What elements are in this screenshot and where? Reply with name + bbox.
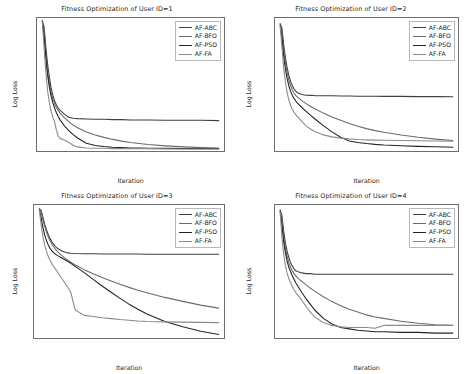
legend: AF-ABCAF-BFOAF-PSOAF-FA — [175, 21, 221, 61]
legend-swatch-icon — [413, 232, 426, 233]
legend-item: AF-ABC — [179, 212, 217, 219]
plot-area: 0.2750.3000.3250.3500.3750.4000.4250.450… — [274, 204, 459, 339]
subplot-user-3: Fitness Optimization of User ID=3Log Los… — [0, 187, 234, 374]
legend-label: AF-PSO — [429, 229, 451, 236]
subplot-title: Fitness Optimization of User ID=4 — [234, 192, 468, 200]
subplot-user-1: Fitness Optimization of User ID=1Log Los… — [0, 0, 234, 187]
legend-item: AF-BFO — [413, 33, 451, 40]
legend-swatch-icon — [179, 27, 192, 28]
legend-label: AF-PSO — [429, 42, 451, 49]
legend: AF-ABCAF-BFOAF-PSOAF-FA — [409, 208, 455, 248]
x-axis-label: Iteration — [274, 177, 459, 184]
legend-swatch-icon — [179, 241, 192, 242]
legend-item: AF-ABC — [179, 25, 217, 32]
legend-swatch-icon — [413, 223, 426, 224]
legend-item: AF-BFO — [413, 220, 451, 227]
legend-label: AF-FA — [429, 238, 446, 245]
x-axis-label: Iteration — [33, 364, 225, 371]
legend-swatch-icon — [413, 36, 426, 37]
legend-label: AF-BFO — [195, 33, 217, 40]
legend-item: AF-ABC — [413, 212, 451, 219]
legend-swatch-icon — [413, 45, 426, 46]
legend-item: AF-PSO — [413, 42, 451, 49]
subplot-user-2: Fitness Optimization of User ID=2Log Los… — [234, 0, 468, 187]
legend-swatch-icon — [179, 223, 192, 224]
legend-item: AF-BFO — [179, 220, 217, 227]
legend-swatch-icon — [413, 214, 426, 215]
y-axis-label: Log Loss — [245, 267, 252, 294]
legend-item: AF-FA — [413, 238, 451, 245]
subplot-title: Fitness Optimization of User ID=2 — [234, 5, 468, 13]
legend-item: AF-FA — [179, 51, 217, 58]
legend-label: AF-FA — [195, 51, 212, 58]
legend-item: AF-PSO — [179, 229, 217, 236]
plot-area: 0.40.50.60.70.80.90100200300400500600700… — [33, 204, 225, 339]
legend-item: AF-PSO — [413, 229, 451, 236]
legend-label: AF-ABC — [195, 212, 217, 219]
legend-swatch-icon — [179, 214, 192, 215]
legend-swatch-icon — [179, 45, 192, 46]
subplot-title: Fitness Optimization of User ID=1 — [0, 5, 234, 13]
legend-item: AF-FA — [179, 238, 217, 245]
x-axis-label: Iteration — [36, 177, 225, 184]
plot-area: 1.01.11.21.31.41.50100200300400500600700… — [274, 17, 459, 152]
legend-label: AF-PSO — [195, 229, 217, 236]
x-axis-label: Iteration — [274, 364, 459, 371]
legend-label: AF-BFO — [429, 220, 451, 227]
legend-swatch-icon — [179, 54, 192, 55]
legend: AF-ABCAF-BFOAF-PSOAF-FA — [175, 208, 221, 248]
plot-area: 0.350.400.450.500.550.600.650.7001002003… — [36, 17, 225, 152]
legend-label: AF-BFO — [195, 220, 217, 227]
legend-label: AF-FA — [195, 238, 212, 245]
legend-label: AF-ABC — [195, 25, 217, 32]
figure-grid: Fitness Optimization of User ID=1Log Los… — [0, 0, 468, 374]
legend-item: AF-FA — [413, 51, 451, 58]
subplot-title: Fitness Optimization of User ID=3 — [0, 192, 234, 200]
legend-swatch-icon — [179, 232, 192, 233]
legend-label: AF-BFO — [429, 33, 451, 40]
y-axis-label: Log Loss — [11, 80, 18, 107]
legend-swatch-icon — [413, 241, 426, 242]
legend-swatch-icon — [179, 36, 192, 37]
legend-item: AF-PSO — [179, 42, 217, 49]
legend-label: AF-ABC — [429, 25, 451, 32]
subplot-user-4: Fitness Optimization of User ID=4Log Los… — [234, 187, 468, 374]
legend-item: AF-ABC — [413, 25, 451, 32]
legend-label: AF-ABC — [429, 212, 451, 219]
legend-label: AF-FA — [429, 51, 446, 58]
legend-swatch-icon — [413, 54, 426, 55]
legend: AF-ABCAF-BFOAF-PSOAF-FA — [409, 21, 455, 61]
y-axis-label: Log Loss — [245, 80, 252, 107]
legend-swatch-icon — [413, 27, 426, 28]
legend-label: AF-PSO — [195, 42, 217, 49]
legend-item: AF-BFO — [179, 33, 217, 40]
y-axis-label: Log Loss — [11, 267, 18, 294]
